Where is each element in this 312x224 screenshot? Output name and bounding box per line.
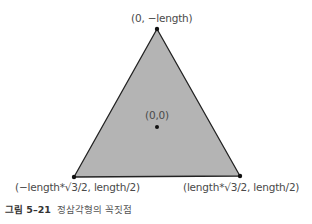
vertex-top-label: (0, −length) xyxy=(131,12,192,24)
figure-caption-text: 정삼각형의 꼭짓점 xyxy=(57,204,132,215)
vertex-bottom-right-label: (length*√3/2, length/2) xyxy=(183,181,299,193)
vertex-bottom-right-dot xyxy=(238,174,242,178)
figure-number: 그림 5–21 xyxy=(5,204,51,215)
vertex-bottom-left-label: (−length*√3/2, length/2) xyxy=(15,181,140,193)
figure-caption: 그림 5–21정삼각형의 꼭짓점 xyxy=(5,202,132,216)
equilateral-triangle xyxy=(74,29,240,177)
vertex-top-dot xyxy=(155,27,159,31)
vertex-bottom-left-dot xyxy=(72,175,76,179)
center-dot xyxy=(155,125,159,129)
center-label: (0,0) xyxy=(145,109,169,121)
